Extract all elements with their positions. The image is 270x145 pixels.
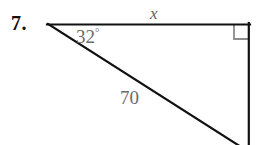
- side-label-x: x: [150, 5, 158, 22]
- right-angle-marker: [234, 24, 249, 39]
- problem-number: 7.: [11, 13, 27, 33]
- side-label-hypotenuse-70: 70: [120, 88, 139, 107]
- degree-symbol-icon: °: [95, 26, 99, 38]
- geometry-figure: 7. x 32° 70: [0, 0, 270, 145]
- triangle-drawing: [0, 0, 270, 145]
- angle-value: 32: [76, 26, 95, 47]
- angle-label-32-degrees: 32°: [76, 27, 99, 46]
